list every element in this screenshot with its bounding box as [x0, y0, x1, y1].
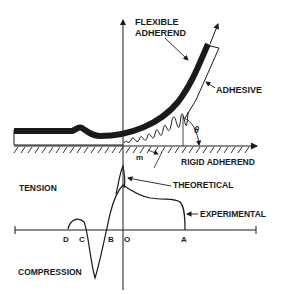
adhesive-fibrils	[124, 112, 188, 143]
point-label-o: O	[124, 235, 130, 244]
adhesive-leader	[206, 82, 215, 88]
theoretical-label: THEORETICAL	[173, 180, 233, 190]
rigid-adherend	[14, 146, 257, 153]
rigid-adherend-label: RIGID ADHEREND	[181, 157, 255, 167]
theoretical-leader	[128, 178, 171, 186]
tension-label: TENSION	[19, 183, 57, 193]
point-label-d: D	[63, 235, 69, 244]
m-label: m	[136, 153, 143, 162]
point-label-c: C	[79, 235, 85, 244]
compression-label: COMPRESSION	[18, 267, 82, 277]
point-label-a: A	[181, 235, 187, 244]
flexible-adherend	[14, 44, 208, 136]
peel-force-arrow	[210, 24, 218, 44]
experimental-label: EXPERIMENTAL	[200, 209, 266, 219]
flexible-adherend-leader	[165, 38, 188, 60]
flexible-adherend-label-2: ADHEREND	[135, 28, 187, 38]
peel-test-diagram: θ m FLEXIBLE ADHEREND ADHESIVE RIGID ADH…	[0, 0, 287, 294]
adhesive-label: ADHESIVE	[216, 85, 262, 95]
theta-label: θ	[194, 125, 199, 135]
point-label-b: B	[108, 235, 114, 244]
experimental-curve	[68, 185, 185, 278]
m-leader	[154, 152, 162, 168]
flexible-adherend-label-1: FLEXIBLE	[135, 17, 179, 27]
